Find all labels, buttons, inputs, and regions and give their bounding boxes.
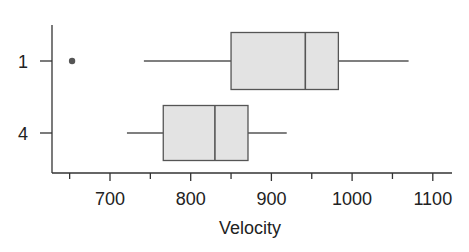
x-ticks: 70080090010001100	[70, 173, 453, 209]
x-tick-label: 900	[256, 189, 286, 209]
boxplot-chart: 14 70080090010001100 Velocity	[0, 0, 469, 252]
y-ticks: 14	[18, 52, 52, 144]
boxes	[69, 33, 409, 161]
x-tick-label: 700	[95, 189, 125, 209]
x-axis-label: Velocity	[219, 218, 281, 238]
y-tick-label: 1	[18, 52, 28, 72]
y-tick-label: 4	[18, 124, 28, 144]
x-tick-label: 1000	[332, 189, 372, 209]
x-tick-label: 800	[176, 189, 206, 209]
box-group-4	[127, 106, 287, 161]
iqr-box	[163, 106, 248, 161]
outlier-point	[69, 58, 75, 64]
iqr-box	[231, 33, 338, 90]
box-group-1	[69, 33, 409, 90]
x-tick-label: 1100	[413, 189, 452, 209]
